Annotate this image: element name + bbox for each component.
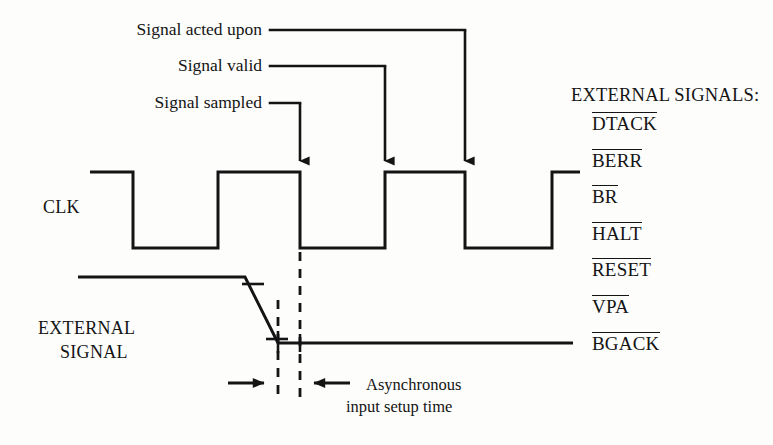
timing-diagram-page: Signal acted upon Signal valid Signal sa… (0, 0, 773, 445)
external-signal-waveform (78, 277, 573, 343)
callout-leader-lines (270, 30, 465, 161)
clk-signal-label: CLK (43, 198, 80, 216)
signal-name-text: HALT (592, 222, 642, 243)
setup-time-note-line1: Asynchronous (366, 374, 461, 396)
external-signal-vpa: VPA (592, 295, 629, 316)
external-signal-br: BR (592, 185, 618, 206)
setup-time-note-line2: input setup time (346, 396, 452, 418)
external-signal-halt: HALT (592, 222, 642, 243)
callout-signal-valid: Signal valid (0, 57, 262, 75)
signal-name-text: DTACK (592, 112, 657, 133)
clk-waveform (90, 172, 580, 248)
callout-signal-sampled: Signal sampled (0, 94, 262, 112)
signal-name-text: VPA (592, 295, 629, 316)
external-signal-reset: RESET (592, 258, 651, 279)
external-signal-berr: BERR (592, 149, 642, 170)
external-signal-bgack: BGACK (592, 332, 660, 353)
external-signal-label-line2: SIGNAL (60, 343, 128, 361)
external-signals-heading: EXTERNAL SIGNALS: (571, 86, 759, 105)
external-signal-trace (78, 277, 573, 343)
clk-trace (90, 172, 580, 248)
signal-name-text: BR (592, 185, 618, 206)
external-signal-dtack: DTACK (592, 112, 657, 133)
setup-time-dashed-markers (278, 252, 300, 397)
signal-name-text: RESET (592, 258, 651, 279)
signal-name-text: BGACK (592, 332, 660, 353)
callout-signal-acted-upon: Signal acted upon (0, 21, 262, 39)
external-signal-label-line1: EXTERNAL (38, 319, 135, 337)
signal-name-text: BERR (592, 149, 642, 170)
